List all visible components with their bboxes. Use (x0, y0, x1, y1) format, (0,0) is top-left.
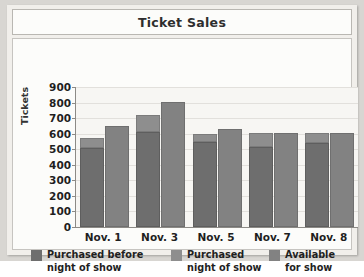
y-axis-tick-label: 400 (31, 160, 71, 170)
legend-item-label: Available for show (285, 249, 335, 274)
x-axis-tick-label: Nov. 5 (188, 231, 244, 243)
bar-purchased-night-of (193, 134, 217, 142)
bar-group (136, 87, 185, 227)
y-axis-tick-label: 200 (31, 191, 71, 201)
bar-purchased-before (249, 147, 273, 227)
bar-group (305, 87, 354, 227)
y-axis-tick-label: 100 (31, 206, 71, 216)
legend-swatch-icon (31, 250, 42, 261)
legend-swatch-icon (171, 250, 182, 261)
bar-available-for-show (161, 102, 185, 227)
bar-purchased-night-of (136, 115, 160, 132)
legend-item: Available for show (269, 249, 335, 274)
y-axis-tick-label: 800 (31, 98, 71, 108)
chart-title-bar: Ticket Sales (12, 9, 352, 35)
bar-group (80, 87, 129, 227)
y-axis-tick-label: 600 (31, 129, 71, 139)
bar-group (249, 87, 298, 227)
bar-available-for-show (330, 133, 354, 227)
y-axis-tick-labels: 9008007006005004003002001000 (27, 87, 71, 227)
bar-purchased-night-of (80, 138, 104, 148)
bar-purchased-before (136, 132, 160, 227)
y-axis-tickmark (72, 227, 76, 228)
chart-body-panel: Tickets 9008007006005004003002001000 Nov… (12, 38, 352, 250)
y-axis-tick-label: 300 (31, 175, 71, 185)
legend-swatch-icon (269, 250, 280, 261)
bar-available-for-show (105, 126, 129, 227)
x-axis-tick-label: Nov. 7 (244, 231, 300, 243)
legend-item: Purchased night of show (171, 249, 262, 274)
y-axis-tick-label: 0 (31, 222, 71, 232)
bar-available-for-show (274, 133, 298, 227)
x-axis-tick-label: Nov. 3 (131, 231, 187, 243)
x-axis-tick-labels: Nov. 1Nov. 3Nov. 5Nov. 7Nov. 8 (75, 231, 357, 247)
bar-purchased-night-of (305, 133, 329, 143)
bar-purchased-night-of (249, 133, 273, 147)
bar-group (193, 87, 242, 227)
chart-paper-panel: Ticket Sales Tickets 9008007006005004003… (7, 5, 357, 255)
bar-purchased-before (305, 143, 329, 227)
plot-area (75, 87, 358, 228)
y-axis-tick-label: 500 (31, 144, 71, 154)
x-axis-tick-label: Nov. 8 (301, 231, 357, 243)
x-axis-tick-label: Nov. 1 (75, 231, 131, 243)
bar-purchased-before (193, 142, 217, 227)
y-axis-tick-label: 900 (31, 82, 71, 92)
bar-available-for-show (218, 129, 242, 227)
page-title: Ticket Sales (138, 15, 226, 30)
legend-item-label: Purchased night of show (187, 249, 262, 274)
legend-item: Purchased before night of show (31, 249, 143, 274)
bar-purchased-before (80, 148, 104, 227)
legend-item-label: Purchased before night of show (47, 249, 143, 274)
chart-legend: Purchased before night of showPurchased … (31, 249, 356, 277)
y-axis-tick-label: 700 (31, 113, 71, 123)
